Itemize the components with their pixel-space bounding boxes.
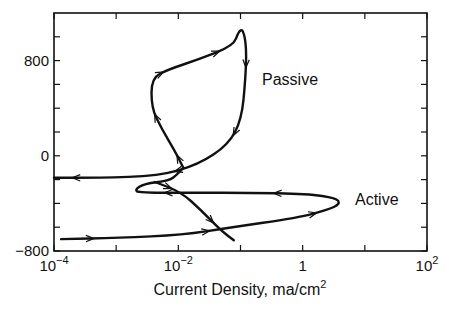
- y-tick-label: 800: [24, 52, 49, 69]
- x-axis-title-sup: 2: [320, 278, 326, 290]
- plot-frame: [54, 13, 427, 251]
- curve-passive: [54, 30, 246, 178]
- x-tick-label: 1: [298, 257, 306, 274]
- x-tick-label: 10−4: [39, 254, 68, 274]
- annotation-passive: Passive: [262, 71, 318, 88]
- x-axis-title: Current Density, ma/cm2: [154, 278, 327, 298]
- annotation-active: Active: [355, 191, 399, 208]
- x-tick-label: 102: [416, 254, 439, 274]
- x-axis-title-main: Current Density, ma/cm: [154, 281, 321, 298]
- curve-cathodic-branch: [155, 182, 234, 240]
- axis-ticks: [54, 13, 427, 251]
- polarization-chart: 8000−80010−410−21102 Passive Active Curr…: [0, 0, 452, 314]
- axis-tick-labels: 8000−80010−410−21102: [15, 52, 438, 274]
- y-tick-label: 0: [41, 147, 49, 164]
- x-tick-label: 10−2: [164, 254, 193, 274]
- curves: [54, 30, 339, 240]
